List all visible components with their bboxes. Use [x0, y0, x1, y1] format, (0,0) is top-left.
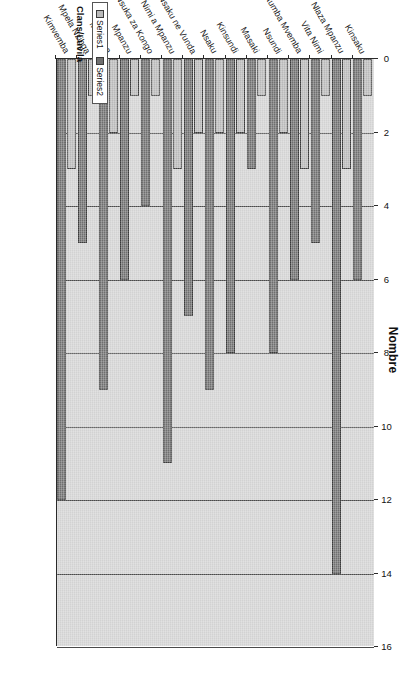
value-axis-tick [374, 646, 378, 647]
legend-label: Series1 [95, 20, 105, 49]
legend-item-series1: Series1 [95, 10, 105, 49]
legend-swatch-icon [96, 57, 104, 65]
value-axis-tick-label: 2 [384, 126, 389, 137]
bar-series1 [67, 59, 76, 169]
value-axis-tick-label: 8 [384, 347, 389, 358]
value-axis-tick-label: 14 [381, 567, 392, 578]
bar-series1 [321, 59, 330, 96]
bar-series1 [363, 59, 372, 96]
value-axis-tick-label: 6 [384, 273, 389, 284]
bar-series1 [173, 59, 182, 169]
value-axis-tick-label: 16 [381, 641, 392, 652]
chart-legend: Series1 Series2 [92, 2, 108, 104]
bar-series1 [279, 59, 288, 133]
bar-series2 [120, 59, 129, 280]
bar-series2 [290, 59, 299, 280]
value-axis-tick-label: 12 [381, 494, 392, 505]
category-axis-label: Nsaku [198, 28, 219, 55]
bar-series2 [184, 59, 193, 316]
legend-item-series2: Series2 [95, 57, 105, 96]
value-axis-tick [374, 58, 378, 59]
bar-series1 [109, 59, 118, 133]
bar-series2 [163, 59, 172, 463]
bar-series2 [57, 59, 66, 500]
bar-series1 [130, 59, 139, 96]
value-axis-tick [374, 132, 378, 133]
value-axis-tick [374, 205, 378, 206]
chart-figure: Nombre 0246810121416 KinsakuNlaza Mpanzu… [0, 0, 408, 700]
value-axis-tick-label: 4 [384, 200, 389, 211]
value-axis-tick-label: 10 [381, 420, 392, 431]
gridline [57, 427, 374, 428]
bar-series2 [205, 59, 214, 390]
bar-series1 [194, 59, 203, 133]
value-axis-tick-label: 0 [384, 53, 389, 64]
bar-series2 [99, 59, 108, 390]
gridline [57, 647, 374, 648]
value-axis-tick [374, 573, 378, 574]
value-axis-tick [374, 352, 378, 353]
bar-series2 [247, 59, 256, 169]
category-axis-label: Nsundi [260, 26, 283, 55]
legend-swatch-icon [96, 10, 104, 18]
category-axis-label: Masaki [239, 26, 262, 56]
bar-series1 [342, 59, 351, 169]
bar-series2 [332, 59, 341, 574]
bar-series1 [300, 59, 309, 169]
bar-series2 [311, 59, 320, 243]
category-axis-title: Clans/Luvila [75, 6, 86, 62]
bar-series1 [257, 59, 266, 96]
bar-series1 [215, 59, 224, 133]
value-axis-tick [374, 499, 378, 500]
bar-series2 [141, 59, 150, 206]
bar-series2 [269, 59, 278, 353]
gridline [57, 500, 374, 501]
plot-area: KinsakuNlaza MpanzuVita NimiNtumba Mvemb… [56, 58, 374, 646]
bar-series1 [151, 59, 160, 96]
category-axis-label: Kinsaku [343, 23, 368, 56]
gridline [57, 574, 374, 575]
value-axis-tick [374, 279, 378, 280]
value-axis-tick [374, 426, 378, 427]
value-axis: 0246810121416 [374, 58, 388, 646]
bar-series2 [353, 59, 362, 280]
bar-series2 [78, 59, 87, 243]
bar-series2 [226, 59, 235, 353]
legend-label: Series2 [95, 67, 105, 96]
bar-series1 [236, 59, 245, 133]
